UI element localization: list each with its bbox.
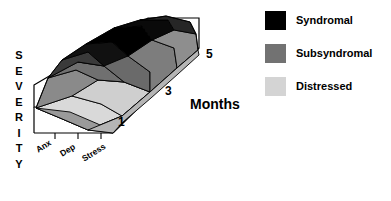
legend-swatch-subsyndromal xyxy=(265,44,286,63)
x-tick-label-5: 5 xyxy=(206,47,213,61)
legend-label-subsyndromal: Subsyndromal xyxy=(296,48,372,59)
x-axis-title: Months xyxy=(190,96,240,112)
legend-label-distressed: Distressed xyxy=(296,81,352,92)
legend-item-syndromal: Syndromal xyxy=(265,10,391,30)
x-axis-ticks xyxy=(55,133,101,139)
legend-item-distressed: Distressed xyxy=(265,76,391,96)
legend-swatch-distressed xyxy=(265,77,286,96)
legend-swatch-syndromal xyxy=(265,11,286,30)
legend-item-subsyndromal: Subsyndromal xyxy=(265,43,391,63)
x-tick-label-1: 1 xyxy=(118,115,125,129)
chart-figure: S E V E R I T Y xyxy=(0,0,391,201)
legend-label-syndromal: Syndromal xyxy=(296,15,353,26)
surface-plot xyxy=(0,0,260,160)
x-tick-label-3: 3 xyxy=(165,84,172,98)
chart-legend: Syndromal Subsyndromal Distressed xyxy=(265,10,391,109)
